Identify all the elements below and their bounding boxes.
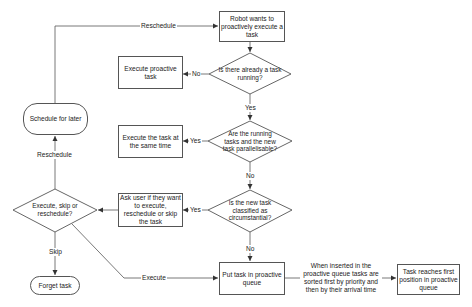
edge-label-circ-yes: Yes [189, 206, 202, 214]
decision-parallel-label: Are the running tasks and the new task p… [220, 130, 280, 153]
decision-running-label: Is there already a task running? [218, 66, 282, 81]
first-position-node: Task reaches first position in proactive… [397, 264, 460, 295]
forget-task-label: Forget task [39, 282, 72, 290]
edge-label-running-no: No [191, 70, 201, 78]
ask-user-label: Ask user if they want to execute, resche… [119, 194, 182, 226]
schedule-later-label: Schedule for later [30, 115, 82, 123]
edge-label-choice-skip: Skip [48, 248, 63, 256]
put-queue-label: Put task in proactive queue [220, 271, 284, 287]
decision-circumstantial: Is the new task classified as circumstan… [222, 197, 278, 224]
execute-same-time-label: Execute the task at the same time [119, 134, 182, 150]
edge-label-reschedule-top: Reschedule [140, 22, 177, 30]
decision-choice: Execute, skip or reschedule? [27, 201, 83, 219]
edge-label-choice-execute: Execute [141, 274, 167, 282]
execute-same-time-node: Execute the task at the same time [118, 125, 183, 158]
forget-task-node: Forget task [30, 276, 80, 295]
decision-circumstantial-label: Is the new task classified as circumstan… [222, 199, 278, 222]
edge-label-parallel-yes: Yes [189, 137, 202, 145]
edge-label-choice-reschedule: Reschedule [36, 151, 73, 159]
edge-label-parallel-no: No [245, 172, 255, 180]
start-node: Robot wants to proactively execute a tas… [219, 11, 285, 42]
edge-label-circ-no: No [245, 245, 255, 253]
decision-running: Is there already a task running? [218, 62, 282, 86]
start-node-label: Robot wants to proactively execute a tas… [220, 15, 284, 39]
first-position-label: Task reaches first position in proactive… [398, 268, 459, 292]
execute-proactive-node: Execute proactive task [118, 56, 183, 89]
execute-proactive-label: Execute proactive task [119, 65, 182, 81]
queue-sorting-note: When inserted in the proactive queue tas… [300, 262, 382, 294]
ask-user-node: Ask user if they want to execute, resche… [118, 193, 183, 227]
decision-parallel: Are the running tasks and the new task p… [220, 128, 280, 155]
decision-choice-label: Execute, skip or reschedule? [27, 202, 83, 217]
edge-label-running-yes: Yes [244, 104, 257, 112]
put-queue-node: Put task in proactive queue [219, 262, 285, 295]
schedule-later-node: Schedule for later [23, 103, 88, 135]
